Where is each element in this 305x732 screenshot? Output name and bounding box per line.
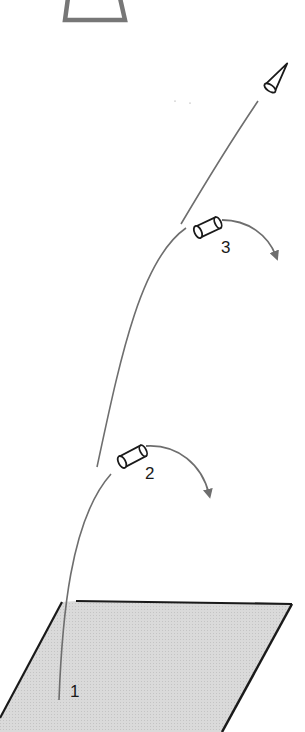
speck: [189, 102, 190, 103]
rocket-nose-cone: [263, 60, 293, 95]
trajectory-segment-2: [97, 228, 186, 467]
stage-2-fall-arrow: [146, 446, 209, 494]
stage-3-label: 3: [221, 238, 230, 257]
rocket-stages-diagram: 3 2 1: [0, 0, 305, 732]
stage-3-booster: [192, 216, 223, 240]
stage-2-label: 2: [145, 464, 154, 483]
ground-plane: [0, 601, 292, 732]
speck: [174, 100, 175, 101]
top-trapezoid-shape: [65, 0, 125, 20]
trajectory-segment-3: [181, 101, 258, 224]
stage-2-booster: [116, 444, 149, 470]
stage-1-label: 1: [70, 682, 79, 701]
